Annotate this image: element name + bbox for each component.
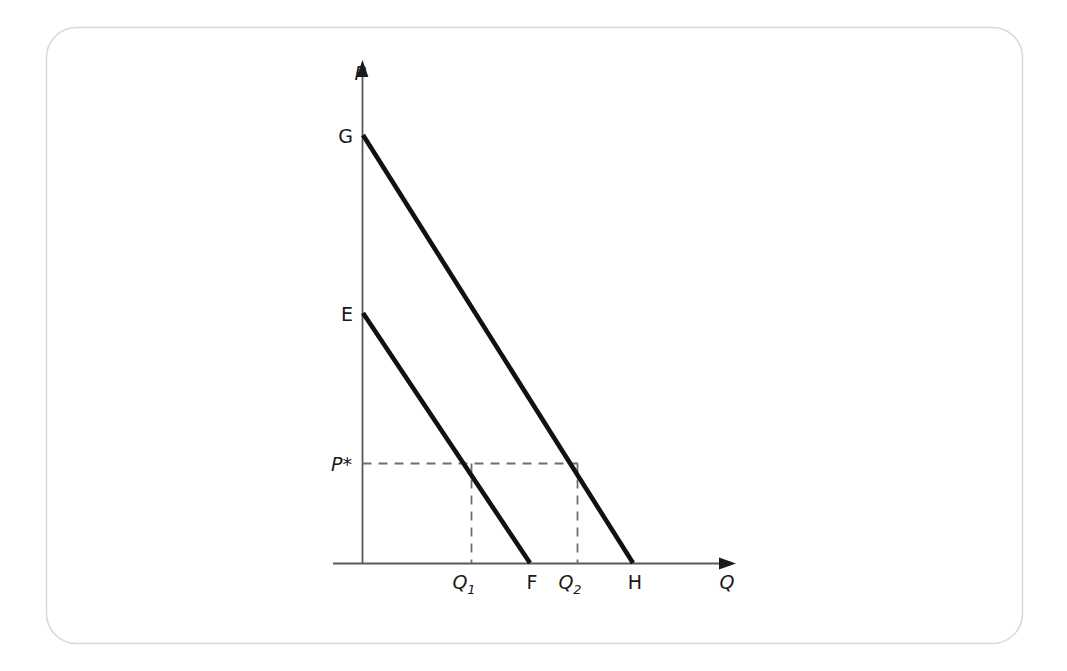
y-axis-label: P <box>355 62 367 84</box>
label-point-f: F <box>527 571 538 593</box>
label-quantity-2-base: Q <box>558 571 573 593</box>
label-point-e: E <box>341 303 353 325</box>
label-quantity-1-subscript: 1 <box>467 582 475 597</box>
figure-root: P Q G E P* F H Q1 Q2 <box>0 0 1067 671</box>
demand-shift-chart: P Q G E P* F H Q1 Q2 <box>0 0 1067 671</box>
label-price-star: P* <box>331 453 352 475</box>
label-quantity-1-base: Q <box>452 571 467 593</box>
x-axis-label: Q <box>720 571 735 593</box>
label-point-g: G <box>338 125 353 147</box>
label-point-h: H <box>628 571 642 593</box>
label-quantity-2-subscript: 2 <box>573 582 581 597</box>
figure-border <box>47 28 1023 644</box>
